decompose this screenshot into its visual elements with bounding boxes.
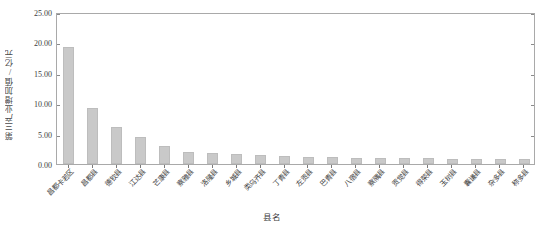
bar <box>279 156 290 164</box>
y-axis-tick-mark <box>57 14 60 15</box>
bar <box>495 159 506 164</box>
y-axis-tick-mark <box>531 136 534 137</box>
y-axis-tick-label: 20.00 <box>18 39 52 48</box>
bar <box>183 152 194 164</box>
y-axis-tick-mark <box>57 136 60 137</box>
y-axis-tick-label: 0.00 <box>18 161 52 170</box>
y-axis-tick-label: 5.00 <box>18 130 52 139</box>
bar <box>159 146 170 164</box>
bar <box>63 47 74 164</box>
bar-chart: 第三产业增加值/亿元 0.005.0010.0015.0020.0025.00 … <box>0 0 544 229</box>
bar <box>111 127 122 164</box>
bars-layer <box>57 14 534 164</box>
bar <box>87 108 98 164</box>
bar <box>423 158 434 164</box>
bar <box>447 159 458 164</box>
y-axis-tick-mark <box>531 14 534 15</box>
bar <box>327 157 338 164</box>
y-axis-tick-label: 15.00 <box>18 69 52 78</box>
x-axis-title: 县名 <box>0 210 544 222</box>
bar <box>231 154 242 164</box>
plot-area <box>56 13 535 165</box>
bar <box>135 137 146 164</box>
y-axis-tick-mark <box>531 75 534 76</box>
y-axis-tick-label: 25.00 <box>18 9 52 18</box>
x-axis-tick-labels: 昌都卡若区昌都县德钦县江达县芒康县察雅县洛隆县乡城县类乌齐县丁青县左贡县巴青县八… <box>56 168 535 212</box>
y-axis-title: 第三产业增加值/亿元 <box>2 22 18 167</box>
y-axis-tick-mark <box>531 105 534 106</box>
y-axis-tick-mark <box>57 105 60 106</box>
bar <box>375 158 386 164</box>
bar <box>351 158 362 164</box>
bar <box>399 158 410 164</box>
y-axis-tick-label: 10.00 <box>18 100 52 109</box>
y-axis-tick-mark <box>57 75 60 76</box>
bar <box>255 155 266 164</box>
y-axis-tick-labels: 0.005.0010.0015.0020.0025.00 <box>18 0 52 170</box>
bar <box>471 159 482 164</box>
bar <box>519 159 530 164</box>
bar <box>207 153 218 164</box>
bar <box>303 157 314 164</box>
y-axis-tick-mark <box>57 44 60 45</box>
y-axis-tick-mark <box>531 44 534 45</box>
